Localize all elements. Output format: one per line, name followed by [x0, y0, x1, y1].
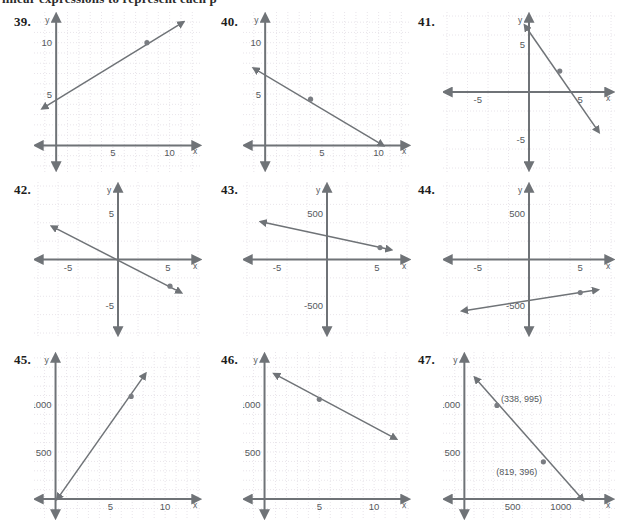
problem-number-43: 43.	[221, 182, 238, 198]
svg-text:y: y	[453, 355, 458, 365]
svg-text:y: y	[316, 185, 321, 195]
graph-42: xy-55-55	[34, 182, 202, 337]
svg-text:x: x	[193, 261, 198, 271]
svg-text:x: x	[193, 500, 198, 510]
problem-number-45: 45.	[14, 352, 31, 368]
svg-text:500: 500	[36, 447, 52, 458]
svg-text:5: 5	[578, 262, 583, 273]
problem-number-40: 40.	[221, 14, 238, 30]
svg-text:5: 5	[317, 501, 322, 512]
svg-text:-5: -5	[106, 300, 114, 311]
svg-text:1000: 1000	[550, 501, 571, 512]
svg-text:5: 5	[108, 501, 113, 512]
svg-text:500: 500	[445, 447, 461, 458]
graph-47: xy50010005001000(338, 995)(819, 396)	[443, 352, 615, 520]
svg-text:x: x	[606, 93, 611, 103]
problem-number-41: 41.	[418, 14, 435, 30]
svg-text:10: 10	[251, 37, 262, 48]
svg-text:-5: -5	[474, 262, 482, 273]
svg-text:10: 10	[42, 37, 53, 48]
svg-text:1000: 1000	[243, 399, 261, 410]
svg-text:x: x	[193, 146, 198, 156]
problem-number-42: 42.	[14, 182, 31, 198]
svg-text:1000: 1000	[443, 399, 460, 410]
svg-text:x: x	[402, 146, 407, 156]
svg-text:x: x	[606, 500, 611, 510]
svg-text:5: 5	[319, 147, 324, 158]
svg-text:-5: -5	[64, 262, 72, 273]
graph-39: xy510510	[34, 12, 202, 172]
graph-46: xy5105001000	[243, 352, 411, 520]
svg-text:x: x	[606, 261, 611, 271]
svg-text:-500: -500	[304, 300, 323, 311]
svg-text:500: 500	[509, 208, 525, 219]
svg-text:y: y	[45, 15, 50, 25]
svg-text:-5: -5	[474, 94, 482, 105]
svg-text:y: y	[254, 355, 259, 365]
svg-text:y: y	[518, 185, 523, 195]
svg-text:y: y	[45, 355, 50, 365]
problem-number-44: 44.	[418, 182, 435, 198]
problem-number-39: 39.	[14, 14, 31, 30]
svg-text:500: 500	[505, 501, 521, 512]
svg-text:5: 5	[109, 208, 114, 219]
point-annotation: (338, 995)	[501, 394, 542, 404]
svg-text:1000: 1000	[34, 399, 52, 410]
svg-text:5: 5	[256, 89, 261, 100]
svg-text:500: 500	[245, 447, 261, 458]
svg-text:10: 10	[373, 147, 384, 158]
svg-text:-5: -5	[517, 134, 525, 145]
svg-text:500: 500	[307, 208, 323, 219]
svg-text:-5: -5	[273, 262, 281, 273]
svg-text:5: 5	[165, 262, 170, 273]
graph-45: xy5105001000	[34, 352, 202, 520]
svg-text:10: 10	[160, 501, 171, 512]
svg-text:5: 5	[520, 39, 525, 50]
graph-41: xy-55-55	[443, 12, 615, 172]
svg-text:x: x	[402, 261, 407, 271]
svg-text:10: 10	[164, 147, 175, 158]
svg-text:10: 10	[369, 501, 380, 512]
graph-44: xy-55-500500	[443, 182, 615, 337]
point-annotation: (819, 396)	[496, 467, 537, 477]
svg-text:y: y	[107, 185, 112, 195]
problem-number-46: 46.	[221, 352, 238, 368]
problem-number-47: 47.	[418, 352, 435, 368]
svg-text:5: 5	[374, 262, 379, 273]
graph-40: xy510510	[243, 12, 411, 172]
svg-text:5: 5	[110, 147, 115, 158]
svg-text:x: x	[402, 500, 407, 510]
svg-text:y: y	[518, 15, 523, 25]
worksheet-graph-grid: 39.xy51051040.xy51051041.xy-55-5542.xy-5…	[0, 0, 627, 524]
svg-text:y: y	[254, 15, 259, 25]
graph-43: xy-55-500500	[243, 182, 411, 337]
svg-text:5: 5	[47, 89, 52, 100]
